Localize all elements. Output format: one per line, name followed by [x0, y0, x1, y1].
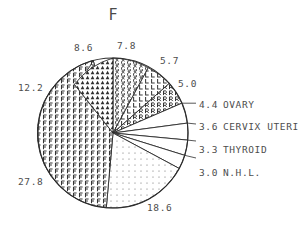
pie-label-8-6: 8.6 — [74, 43, 93, 53]
legend-item-nhl: 3.0N.H.L. — [199, 168, 261, 178]
legend-value-cervix-uteri: 3.6 — [199, 121, 218, 132]
pie-label-5-7: 5.7 — [160, 56, 179, 66]
legend-value-thyroid: 3.3 — [199, 144, 218, 155]
legend-label-cervix-uteri: CERVIX UTERI — [223, 121, 299, 132]
legend-label-ovary: OVARY — [223, 99, 255, 110]
legend-item-cervix-uteri: 3.6CERVIX UTERI — [199, 122, 299, 132]
legend-value-ovary: 4.4 — [199, 99, 218, 110]
legend-value-nhl: 3.0 — [199, 167, 218, 178]
legend-label-thyroid: THYROID — [223, 144, 267, 155]
pie-label-27-8: 27.8 — [18, 177, 43, 187]
pie-label-5-0: 5.0 — [178, 79, 197, 89]
legend-item-ovary: 4.4OVARY — [199, 100, 255, 110]
chart-canvas: F — [0, 0, 303, 229]
legend-item-thyroid: 3.3THYROID — [199, 145, 267, 155]
pie-label-12-2: 12.2 — [18, 83, 43, 93]
legend-label-nhl: N.H.L. — [223, 167, 261, 178]
pie-chart-svg — [0, 0, 303, 229]
pie-label-7-8: 7.8 — [117, 41, 136, 51]
pie-label-18-6: 18.6 — [147, 203, 172, 213]
